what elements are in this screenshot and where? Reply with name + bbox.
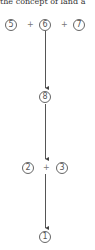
plus-operator: + [61, 20, 68, 30]
node-2: 2 [22, 162, 34, 174]
plus-operator: + [43, 163, 50, 173]
node-8: 8 [39, 91, 51, 103]
node-3: 3 [56, 162, 68, 174]
node-6: 6 [39, 19, 51, 31]
plus-operator: + [27, 20, 34, 30]
node-7: 7 [73, 19, 85, 31]
node-5: 5 [5, 19, 17, 31]
arrows [0, 0, 95, 250]
node-1: 1 [39, 231, 51, 243]
